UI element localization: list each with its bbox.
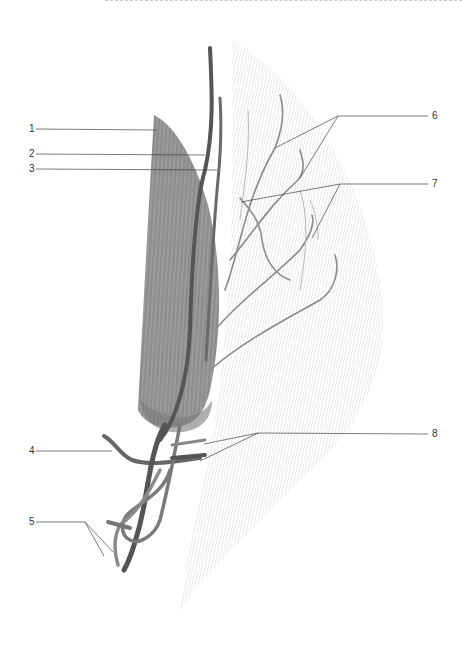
label-3: 3	[29, 164, 35, 174]
label-8: 8	[432, 429, 438, 439]
label-5: 5	[29, 517, 35, 527]
label-7: 7	[432, 179, 438, 189]
label-2: 2	[29, 149, 35, 159]
lower-vessel-group	[104, 425, 205, 570]
leader-1	[36, 129, 157, 130]
anatomical-figure: 1 2 3 4 5 6 7 8	[0, 0, 462, 645]
illustration-svg	[0, 0, 462, 645]
label-1: 1	[29, 124, 35, 134]
leader-5a	[36, 522, 113, 552]
label-4: 4	[29, 446, 35, 456]
label-6: 6	[432, 111, 438, 121]
